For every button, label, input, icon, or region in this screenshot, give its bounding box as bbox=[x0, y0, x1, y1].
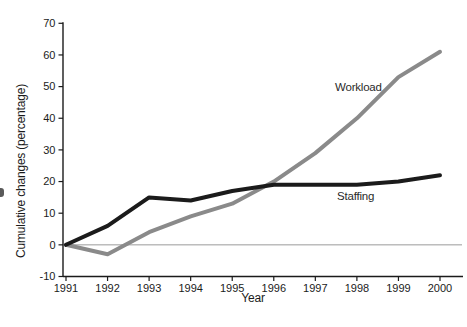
y-axis-title: Cumulative changes (percentage) bbox=[14, 51, 28, 291]
workload-line bbox=[66, 52, 440, 255]
x-tick-label: 1998 bbox=[345, 282, 369, 294]
x-axis-title: Year bbox=[223, 291, 283, 305]
scan-artifact bbox=[0, 188, 4, 197]
staffing-line bbox=[66, 175, 440, 245]
y-tick-label: 10 bbox=[43, 207, 55, 219]
staffing-series-label: Staffing bbox=[337, 190, 374, 202]
workload-series-label: Workload bbox=[335, 81, 382, 93]
x-tick-label: 1994 bbox=[178, 282, 202, 294]
x-tick-label: 1999 bbox=[386, 282, 410, 294]
x-tick-label: 2000 bbox=[428, 282, 452, 294]
y-tick-label: 20 bbox=[43, 175, 55, 187]
y-tick-label: 0 bbox=[49, 239, 55, 251]
y-tick-label: 60 bbox=[43, 49, 55, 61]
y-tick-label: 50 bbox=[43, 80, 55, 92]
x-tick-label: 1992 bbox=[95, 282, 119, 294]
y-tick-label: -10 bbox=[40, 270, 56, 282]
y-tick-label: 70 bbox=[43, 17, 55, 29]
y-tick-label: 40 bbox=[43, 112, 55, 124]
chart-figure: -100102030405060701991199219931994199519… bbox=[0, 0, 467, 327]
chart-svg: -100102030405060701991199219931994199519… bbox=[0, 0, 467, 327]
x-tick-label: 1997 bbox=[303, 282, 327, 294]
y-tick-label: 30 bbox=[43, 144, 55, 156]
x-tick-label: 1993 bbox=[137, 282, 161, 294]
x-tick-label: 1991 bbox=[54, 282, 78, 294]
